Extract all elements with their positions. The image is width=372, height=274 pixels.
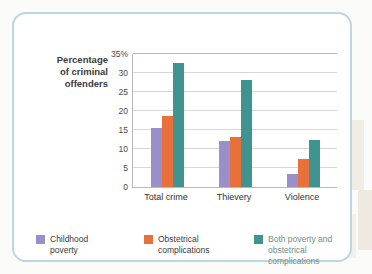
legend-item-2[interactable]: Both poverty and obstetrical complicatio… bbox=[254, 234, 356, 267]
bar-group-violence bbox=[269, 54, 337, 187]
scan-artifact-right-lower bbox=[358, 190, 372, 250]
legend-label-2: Both poverty and obstetrical complicatio… bbox=[268, 234, 356, 267]
bar-total-crime-series-1[interactable] bbox=[162, 116, 173, 187]
bar-thievery-series-0[interactable] bbox=[219, 141, 230, 187]
bar-violence-series-1[interactable] bbox=[298, 159, 309, 187]
figure-card: Percentage of criminal offenders 35%3025… bbox=[12, 12, 352, 262]
bar-total-crime-series-2[interactable] bbox=[173, 63, 184, 187]
y-tick-label-30: 30 bbox=[119, 68, 128, 78]
bar-violence-series-2[interactable] bbox=[309, 140, 320, 188]
y-axis-tick-labels: 35%302520151050 bbox=[96, 54, 128, 188]
legend-swatch-icon-0 bbox=[36, 235, 45, 244]
y-tick-label-10: 10 bbox=[119, 144, 128, 154]
chart-legend: Childhood povertyObstetrical complicatio… bbox=[36, 234, 356, 264]
legend-swatch-icon-2 bbox=[254, 235, 263, 244]
legend-label-0: Childhood poverty bbox=[50, 234, 88, 256]
bar-group-thievery bbox=[201, 54, 269, 187]
y-tick-label-5: 5 bbox=[123, 163, 128, 173]
bar-violence-series-0[interactable] bbox=[287, 174, 298, 187]
plot-area bbox=[132, 54, 337, 188]
bar-thievery-series-1[interactable] bbox=[230, 137, 241, 187]
bar-thievery-series-2[interactable] bbox=[241, 80, 252, 187]
legend-item-0[interactable]: Childhood poverty bbox=[36, 234, 88, 256]
x-axis-category-labels: Total crimeThieveryViolence bbox=[132, 192, 337, 206]
x-category-label-total-crime: Total crime bbox=[144, 192, 188, 202]
y-tick-label-0: 0 bbox=[123, 182, 128, 192]
y-tick-label-20: 20 bbox=[119, 106, 128, 116]
y-tick-label-25: 25 bbox=[119, 87, 128, 97]
bar-total-crime-series-0[interactable] bbox=[151, 128, 162, 187]
scan-artifact-right-upper bbox=[352, 120, 364, 190]
legend-item-1[interactable]: Obstetrical complications bbox=[144, 234, 210, 256]
y-tick-label-15: 15 bbox=[119, 125, 128, 135]
x-category-label-thievery: Thievery bbox=[217, 192, 252, 202]
y-tick-label-35: 35% bbox=[111, 49, 128, 59]
legend-swatch-icon-1 bbox=[144, 235, 153, 244]
bar-group-total-crime bbox=[133, 54, 201, 187]
x-category-label-violence: Violence bbox=[285, 192, 319, 202]
legend-label-1: Obstetrical complications bbox=[158, 234, 210, 256]
